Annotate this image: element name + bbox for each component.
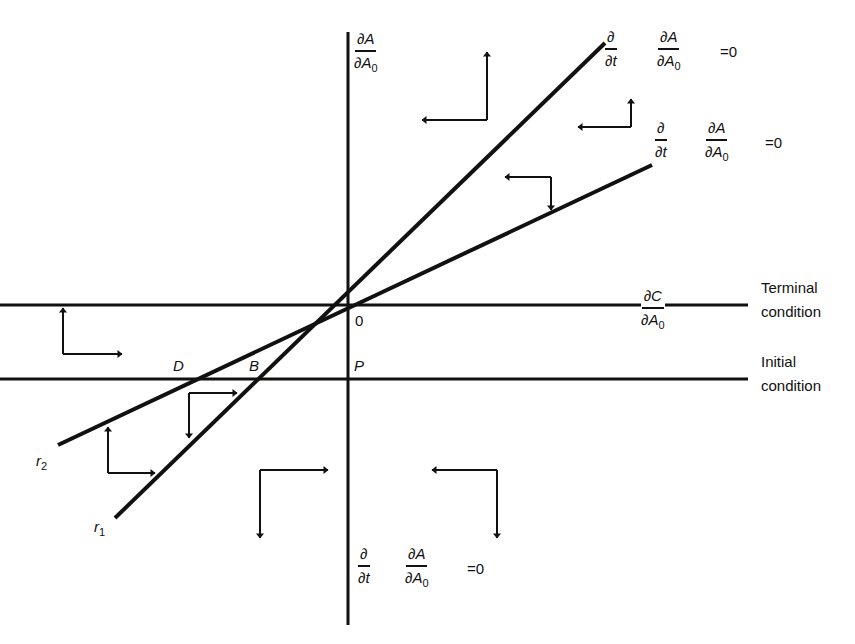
origin-label: 0 — [355, 312, 363, 329]
ray-r1-label: r1 — [94, 518, 105, 538]
direction-arrow-top-right — [578, 99, 631, 127]
direction-arrow-between-rays-upper — [505, 177, 551, 210]
direction-arrow-bottom-right — [432, 470, 497, 538]
horizontal-axis-label: ∂C ∂A0 — [641, 287, 665, 334]
terminal-condition-label: Terminal condition — [761, 276, 821, 324]
ray-r1 — [115, 43, 605, 518]
horizontal-axis-label-num: ∂C — [642, 287, 664, 309]
direction-arrow-bottom-middle-left — [260, 470, 328, 538]
direction-arrow-left-between-conditions — [63, 308, 122, 354]
point-d-label: D — [173, 357, 184, 374]
direction-arrow-left-bottom — [108, 427, 155, 473]
horizontal-axis-label-den: ∂A0 — [641, 309, 665, 334]
point-p-label: P — [354, 357, 364, 374]
vertical-axis-label-num: ∂A — [355, 30, 376, 52]
vertical-axis-label-den: ∂A0 — [354, 52, 378, 77]
vertical-axis-label: ∂A ∂A0 — [354, 30, 378, 77]
point-b-label: B — [249, 357, 259, 374]
direction-arrow-top-middle — [422, 52, 487, 120]
ray-r2-label: r2 — [36, 452, 47, 472]
initial-condition-label: Initial condition — [761, 350, 821, 398]
direction-arrow-between-rays-lower — [189, 393, 237, 438]
